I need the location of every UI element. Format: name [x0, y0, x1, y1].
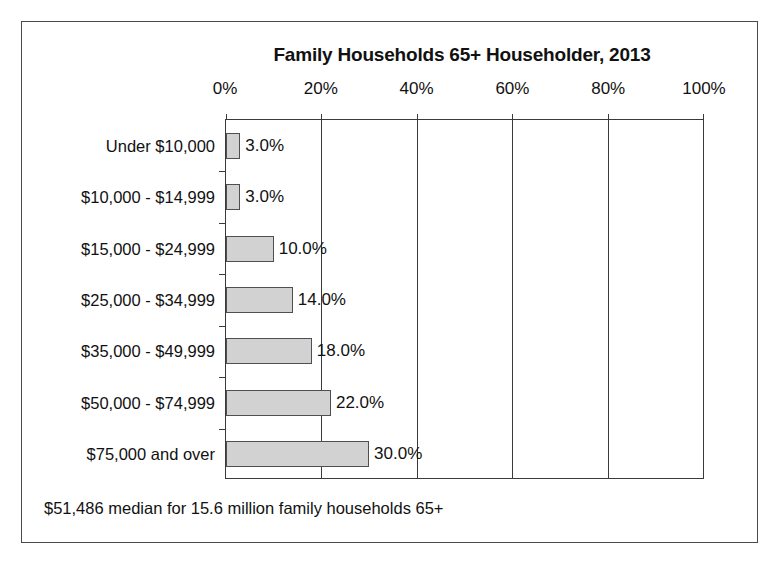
x-tick-label: 0%: [213, 79, 238, 99]
chart-category-row: $35,000 - $49,99918.0%: [226, 326, 703, 377]
category-label: $75,000 and over: [87, 445, 215, 464]
chart-bar: [226, 236, 274, 262]
x-tick-label: 100%: [682, 79, 725, 99]
category-label: $10,000 - $14,999: [81, 188, 215, 207]
chart-category-row: Under $10,0003.0%: [226, 120, 703, 171]
y-tick-mark: [219, 377, 226, 378]
chart-bar: [226, 441, 369, 467]
bar-value-label: 3.0%: [245, 136, 284, 156]
bar-value-label: 14.0%: [298, 290, 346, 310]
bar-value-label: 10.0%: [279, 239, 327, 259]
y-tick-mark: [219, 326, 226, 327]
x-tick-label: 20%: [304, 79, 338, 99]
y-tick-mark: [219, 274, 226, 275]
chart-bar: [226, 133, 240, 159]
chart-category-row: $50,000 - $74,99922.0%: [226, 377, 703, 428]
x-tick-label: 80%: [591, 79, 625, 99]
chart-category-row: $10,000 - $14,9993.0%: [226, 171, 703, 222]
chart-footnote: $51,486 median for 15.6 million family h…: [44, 499, 443, 518]
figure-frame: Family Households 65+ Householder, 2013 …: [21, 21, 758, 543]
y-tick-mark: [219, 223, 226, 224]
bar-value-label: 30.0%: [374, 444, 422, 464]
y-tick-mark: [219, 171, 226, 172]
chart-category-row: $75,000 and over30.0%: [226, 429, 703, 480]
bar-value-label: 22.0%: [336, 393, 384, 413]
category-label: $25,000 - $34,999: [81, 290, 215, 309]
chart-category-row: $15,000 - $24,99910.0%: [226, 223, 703, 274]
bar-value-label: 3.0%: [245, 187, 284, 207]
category-label: Under $10,000: [106, 136, 215, 155]
chart-category-row: $25,000 - $34,99914.0%: [226, 274, 703, 325]
category-label: $35,000 - $49,999: [81, 342, 215, 361]
chart-bar: [226, 184, 240, 210]
x-tick-mark: [703, 114, 704, 120]
x-axis-tick-labels: 0%20%40%60%80%100%: [22, 79, 759, 103]
category-label: $15,000 - $24,999: [81, 239, 215, 258]
x-tick-label: 40%: [400, 79, 434, 99]
category-label: $50,000 - $74,999: [81, 393, 215, 412]
chart-bar: [226, 287, 293, 313]
chart-bar: [226, 390, 331, 416]
y-tick-mark: [219, 429, 226, 430]
bar-value-label: 18.0%: [317, 341, 365, 361]
plot-area: Under $10,0003.0%$10,000 - $14,9993.0%$1…: [225, 119, 704, 479]
chart-bar: [226, 338, 312, 364]
chart-title: Family Households 65+ Householder, 2013: [202, 44, 722, 66]
x-tick-label: 60%: [495, 79, 529, 99]
